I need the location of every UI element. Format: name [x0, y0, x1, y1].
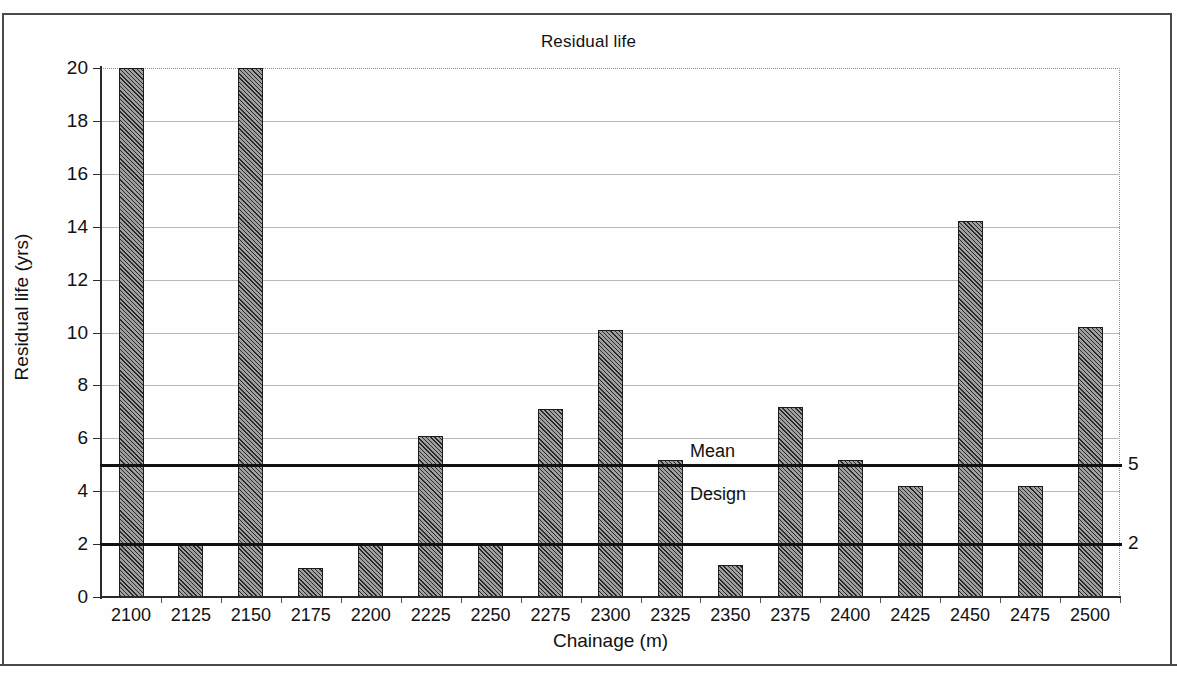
y-tick-mark-20 [93, 68, 101, 69]
bar-2225 [418, 436, 443, 597]
bar-2200 [358, 544, 383, 597]
x-axis-line [100, 596, 1121, 598]
x-tick-label-2350: 2350 [700, 606, 760, 626]
y-tick-label-6: 6 [77, 428, 88, 447]
x-tick-mark-2150 [281, 598, 282, 603]
y-tick-label-16: 16 [67, 164, 88, 183]
x-tick-label-2225: 2225 [401, 606, 461, 626]
x-axis-title: Chainage (m) [0, 630, 1177, 652]
x-tick-mark-2175 [341, 598, 342, 603]
bar-2425 [898, 486, 923, 597]
x-tick-mark-2200 [401, 598, 402, 603]
y-tick-label-18: 18 [67, 111, 88, 130]
plot-area [101, 68, 1120, 597]
reference-label-mean: Mean [690, 441, 735, 462]
x-tick-mark-2450 [1000, 598, 1001, 603]
bar-2125 [178, 544, 203, 597]
x-tick-mark-2100 [161, 598, 162, 603]
x-tick-label-2250: 2250 [461, 606, 521, 626]
reference-line-design [100, 543, 1122, 546]
x-tick-mark-2300 [641, 598, 642, 603]
bar-2450 [958, 221, 983, 597]
x-tick-label-2450: 2450 [940, 606, 1000, 626]
bar-2400 [838, 460, 863, 598]
x-tick-mark-2250 [521, 598, 522, 603]
bar-2350 [718, 565, 743, 597]
bar-2375 [778, 407, 803, 597]
y-tick-mark-8 [93, 385, 101, 386]
chart-title: Residual life [0, 32, 1177, 52]
y-tick-mark-12 [93, 280, 101, 281]
y-tick-label-4: 4 [77, 481, 88, 500]
bar-2250 [478, 544, 503, 597]
y-tick-label-14: 14 [67, 217, 88, 236]
x-tick-mark-2400 [880, 598, 881, 603]
x-tick-mark-2350 [760, 598, 761, 603]
scanned-page: Residual life Residual life (yrs) Chaina… [0, 0, 1177, 696]
y-tick-mark-10 [93, 333, 101, 334]
y-tick-mark-16 [93, 174, 101, 175]
x-tick-label-2175: 2175 [281, 606, 341, 626]
x-tick-label-2275: 2275 [521, 606, 581, 626]
x-tick-label-2375: 2375 [760, 606, 820, 626]
x-tick-label-2400: 2400 [820, 606, 880, 626]
x-tick-label-2300: 2300 [581, 606, 641, 626]
x-tick-label-2475: 2475 [1000, 606, 1060, 626]
x-tick-mark-2500 [1120, 598, 1121, 603]
x-tick-mark-2325 [700, 598, 701, 603]
y-tick-label-8: 8 [77, 375, 88, 394]
x-tick-label-2500: 2500 [1060, 606, 1120, 626]
reference-value-design: 2 [1128, 532, 1139, 554]
x-tick-label-2100: 2100 [101, 606, 161, 626]
y-tick-label-20: 20 [67, 58, 88, 77]
y-axis-title: Residual life (yrs) [11, 77, 33, 537]
reference-label-design: Design [690, 484, 746, 505]
bar-2100 [119, 68, 144, 597]
x-tick-label-2425: 2425 [880, 606, 940, 626]
y-tick-mark-18 [93, 121, 101, 122]
y-tick-label-2: 2 [77, 534, 88, 553]
y-tick-label-12: 12 [67, 270, 88, 289]
bar-2475 [1018, 486, 1043, 597]
x-tick-mark-2475 [1060, 598, 1061, 603]
x-tick-label-2150: 2150 [221, 606, 281, 626]
x-tick-mark-2125 [221, 598, 222, 603]
y-tick-label-10: 10 [67, 323, 88, 342]
y-tick-mark-6 [93, 438, 101, 439]
y-tick-mark-14 [93, 227, 101, 228]
x-tick-label-2325: 2325 [640, 606, 700, 626]
x-tick-mark-2275 [581, 598, 582, 603]
bar-2175 [298, 568, 323, 597]
y-tick-mark-4 [93, 491, 101, 492]
x-tick-mark-2375 [820, 598, 821, 603]
x-tick-label-2125: 2125 [161, 606, 221, 626]
bar-2325 [658, 460, 683, 598]
bar-2275 [538, 409, 563, 597]
bar-2150 [238, 68, 263, 597]
x-tick-mark-2425 [940, 598, 941, 603]
bar-2500 [1078, 327, 1103, 597]
residual-life-bar-chart: Residual life Residual life (yrs) Chaina… [0, 0, 1177, 696]
x-tick-label-2200: 2200 [341, 606, 401, 626]
y-tick-mark-0 [93, 597, 101, 598]
reference-value-mean: 5 [1128, 453, 1139, 475]
reference-line-mean [100, 464, 1122, 467]
y-tick-label-0: 0 [77, 587, 88, 606]
x-tick-mark-2225 [461, 598, 462, 603]
